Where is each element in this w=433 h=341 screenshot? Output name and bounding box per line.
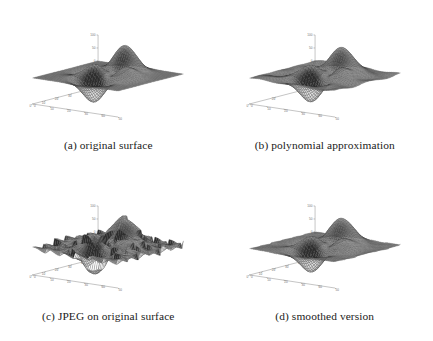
panel-b-xtick: 10 (267, 107, 271, 111)
panel-c-xtick: 20 (68, 280, 72, 284)
panel-c-ztick: 0 (94, 230, 96, 234)
caption-a: (a) original surface (64, 139, 153, 151)
panel-d-xtick: 0 (251, 274, 253, 278)
panel-c-xtick: 30 (85, 282, 89, 286)
panel-b-ytick: 20 (272, 97, 276, 101)
plot-area-d: 100500-50-1005040302010001020304050 (217, 171, 433, 309)
caption-b: (b) polynomial approximation (255, 139, 395, 151)
panel-d-ztick: 100 (307, 204, 312, 208)
panel-c-xtick: 40 (102, 285, 106, 289)
panel-c-ztick: 50 (92, 217, 96, 221)
panel-b-ztick: 50 (309, 46, 313, 50)
panel-c: 100500-50-1005040302010001020304050 (c) … (0, 171, 217, 341)
panel-c-xtick: 0 (34, 274, 36, 278)
panel-d-mesh (249, 218, 400, 272)
panel-a-xtick: 0 (34, 104, 36, 108)
panel-a-xtick: 20 (68, 109, 72, 113)
panel-a-mesh (33, 45, 184, 102)
panel-a-svg: 100500-50-1005040302010001020304050 (0, 0, 216, 138)
panel-c-xtick: 10 (51, 277, 55, 281)
panel-a: 100500-50-1005040302010001020304050 (a) … (0, 0, 217, 171)
panel-c-ytick: 20 (55, 268, 59, 272)
panel-d-xtick: 50 (335, 288, 339, 292)
panel-c-ztick: 100 (91, 204, 96, 208)
panel-a-ytick: 10 (42, 101, 46, 105)
panel-b-ytick: 0 (246, 104, 248, 108)
panel-a-ytick: 20 (55, 97, 59, 101)
panel-b-xtick: 40 (318, 114, 322, 118)
panel-a-ztick: 50 (92, 46, 96, 50)
caption-d: (d) smoothed version (275, 310, 374, 322)
panel-c-svg: 100500-50-1005040302010001020304050 (0, 171, 216, 309)
plot-area-b: 100500-50-100504020001020304050 (217, 0, 433, 138)
panel-a-xtick: 10 (51, 107, 55, 111)
panel-grid: 100500-50-1005040302010001020304050 (a) … (0, 0, 433, 341)
panel-b-mesh (249, 47, 400, 102)
panel-b-ztick: 100 (307, 33, 312, 37)
panel-a-xtick: 50 (119, 117, 123, 121)
panel-b-xtick: 0 (251, 104, 253, 108)
panel-b-xtick: 50 (335, 117, 339, 121)
panel-c-ytick: 10 (42, 271, 46, 275)
panel-b-xtick: 20 (284, 109, 288, 113)
plot-area-a: 100500-50-1005040302010001020304050 (0, 0, 216, 138)
plot-area-c: 100500-50-1005040302010001020304050 (0, 171, 216, 309)
panel-d-ytick: 0 (246, 274, 248, 278)
panel-a-ytick: 30 (68, 94, 72, 98)
panel-c-ytick: 0 (30, 274, 32, 278)
panel-c-mesh (33, 215, 184, 273)
panel-d-xtick: 40 (318, 285, 322, 289)
panel-a-xtick: 30 (85, 112, 89, 116)
panel-b-xtick: 30 (301, 112, 305, 116)
panel-c-ytick: 30 (68, 264, 72, 268)
figure-four-panel-surfaces: 100500-50-1005040302010001020304050 (a) … (0, 0, 433, 341)
panel-d-ytick: 30 (285, 264, 289, 268)
panel-d: 100500-50-1005040302010001020304050 (d) … (217, 171, 433, 341)
panel-c-xtick: 50 (119, 288, 123, 292)
panel-b-svg: 100500-50-100504020001020304050 (217, 0, 433, 138)
caption-c: (c) JPEG on original surface (42, 310, 175, 322)
panel-a-xtick: 40 (102, 114, 106, 118)
panel-d-ytick: 20 (272, 268, 276, 272)
panel-d-ztick: 50 (309, 217, 313, 221)
panel-a-ytick: 0 (30, 104, 32, 108)
panel-d-xtick: 10 (267, 277, 271, 281)
panel-d-xtick: 20 (284, 280, 288, 284)
panel-a-ztick: 100 (91, 33, 96, 37)
panel-d-ytick: 10 (258, 271, 262, 275)
panel-b: 100500-50-100504020001020304050 (b) poly… (217, 0, 433, 171)
panel-d-xtick: 30 (301, 282, 305, 286)
panel-d-svg: 100500-50-1005040302010001020304050 (217, 171, 433, 309)
